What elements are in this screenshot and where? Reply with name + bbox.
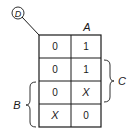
- cell-r3-c0: X: [50, 109, 59, 121]
- karnaugh-map: D A 0 1 0 1 0 X X 0 C B: [0, 0, 131, 132]
- cell-r2-c0: 0: [52, 87, 58, 98]
- right-brace-c: [104, 60, 114, 102]
- cell-r1-c0: 0: [52, 64, 58, 75]
- cell-r1-c1: 1: [83, 64, 89, 75]
- right-variable-label: C: [118, 75, 126, 87]
- corner-diagonal: [22, 17, 39, 35]
- cell-r0-c0: 0: [52, 41, 58, 52]
- top-variable-label: A: [82, 21, 90, 33]
- corner-variable-label: D: [15, 9, 22, 19]
- cell-r3-c1: 0: [83, 110, 89, 121]
- left-brace-b: [26, 82, 36, 127]
- cell-r0-c1: 1: [83, 41, 89, 52]
- cell-r2-c1: X: [81, 86, 90, 98]
- left-variable-label: B: [13, 99, 20, 111]
